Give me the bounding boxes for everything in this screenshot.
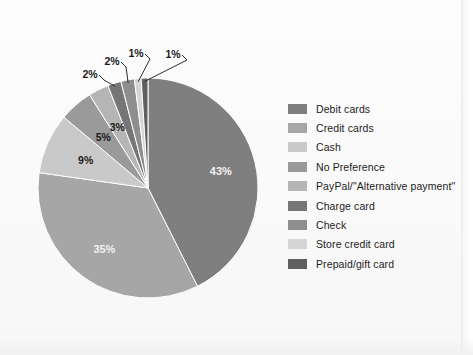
legend-item[interactable]: Check	[288, 215, 468, 234]
legend-color-swatch	[288, 104, 307, 114]
legend-item-label: Check	[316, 219, 346, 231]
legend-item[interactable]: Credit cards	[288, 118, 468, 137]
pie-slice-label: 35%	[93, 243, 115, 255]
leader-line	[99, 75, 115, 86]
legend-item[interactable]: PayPal/"Alternative payment"	[288, 177, 468, 196]
legend-item[interactable]: No Preference	[288, 157, 468, 176]
pie-chart: 43%35%9%5%3%2%2%1%1%	[0, 0, 300, 355]
legend-item[interactable]: Prepaid/gift card	[288, 254, 468, 273]
pie-slice-label: 1%	[165, 48, 181, 60]
legend-color-swatch	[288, 259, 307, 269]
pie-slice-label: 3%	[110, 121, 126, 133]
legend-color-swatch	[288, 239, 307, 249]
pie-slice-label: 1%	[128, 47, 144, 59]
pie-slice-label: 9%	[78, 154, 94, 166]
legend-item-label: Charge card	[316, 200, 375, 212]
legend-item[interactable]: Cash	[288, 138, 468, 157]
legend-item-label: Debit cards	[316, 103, 370, 115]
legend: Debit cardsCredit cardsCashNo Preference…	[288, 99, 468, 274]
legend-item[interactable]: Charge card	[288, 196, 468, 215]
legend-item-label: No Preference	[316, 161, 385, 173]
pie-slice-label: 43%	[210, 165, 232, 177]
legend-item-label: Prepaid/gift card	[316, 258, 394, 270]
legend-color-swatch	[288, 142, 307, 152]
legend-color-swatch	[288, 220, 307, 230]
legend-item-label: Store credit card	[316, 238, 395, 250]
legend-item[interactable]: Debit cards	[288, 99, 468, 118]
legend-item-label: Cash	[316, 141, 341, 153]
pie-slice-label: 2%	[104, 55, 120, 67]
pie-slice-label: 2%	[82, 68, 98, 80]
legend-color-swatch	[288, 201, 307, 211]
legend-item-label: PayPal/"Alternative payment"	[316, 180, 455, 192]
legend-color-swatch	[288, 123, 307, 133]
legend-color-swatch	[288, 181, 307, 191]
legend-item[interactable]: Store credit card	[288, 235, 468, 254]
pie-slice-group	[38, 78, 258, 298]
legend-color-swatch	[288, 162, 307, 172]
pie-chart-svg: 43%35%9%5%3%2%2%1%1%	[0, 0, 300, 355]
legend-item-label: Credit cards	[316, 122, 374, 134]
